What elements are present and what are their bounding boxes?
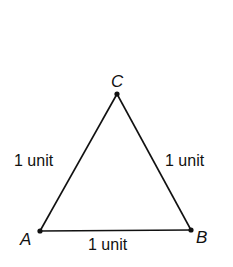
- vertex-a-dot: [37, 228, 42, 233]
- side-ab-label: 1 unit: [88, 236, 128, 253]
- vertex-b-dot: [188, 227, 193, 232]
- triangle-diagram: C A B 1 unit 1 unit 1 unit: [0, 0, 233, 267]
- side-ab: [40, 230, 191, 231]
- side-ac-label: 1 unit: [14, 152, 54, 169]
- vertex-b-label: B: [196, 228, 207, 247]
- vertex-a-label: A: [19, 230, 31, 249]
- side-cb-label: 1 unit: [165, 152, 205, 169]
- vertex-c-dot: [114, 91, 119, 96]
- vertex-c-label: C: [111, 72, 124, 91]
